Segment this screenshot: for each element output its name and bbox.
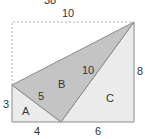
region-a-label: A [22,105,30,117]
hyp-a-label: 5 [38,90,44,102]
left-height-label: 3 [3,98,9,110]
top-width-label: 10 [62,7,74,19]
hyp-c-label: 10 [82,64,94,76]
region-c-label: C [106,92,114,104]
region-b-label: B [58,78,65,90]
trapezoid-diagram: 38 10 3 8 4 6 5 10 A B C [0,0,145,139]
right-height-label: 8 [137,65,143,77]
bottom-right-label: 6 [95,125,101,137]
top-cut-label: 38 [44,0,56,6]
bottom-left-label: 4 [34,125,40,137]
